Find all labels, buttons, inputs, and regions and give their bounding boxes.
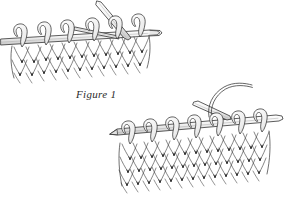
knitted-fabric-figure-2	[119, 132, 269, 193]
illustration-page: Figure 1	[0, 0, 284, 205]
figure-2-group: Figure 2	[108, 82, 284, 205]
knitted-fabric-figure-1	[12, 37, 149, 83]
figure-2-illustration	[108, 82, 284, 205]
